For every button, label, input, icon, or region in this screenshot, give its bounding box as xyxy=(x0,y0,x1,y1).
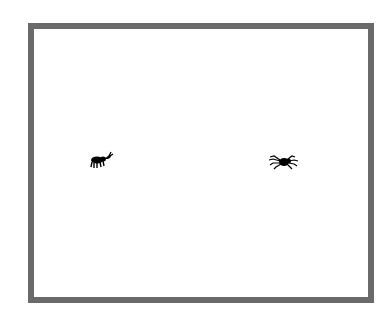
spider-icon xyxy=(268,153,300,171)
ant-icon xyxy=(89,150,115,170)
picture-frame xyxy=(28,23,374,303)
